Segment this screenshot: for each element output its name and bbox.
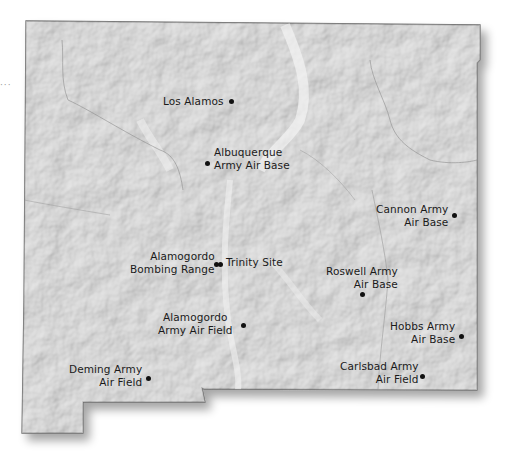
- label-cannon: Cannon Army Air Base: [376, 203, 448, 229]
- label-hobbs: Hobbs Army Air Base: [390, 320, 455, 346]
- label-deming: Deming Army Air Field: [69, 363, 142, 389]
- location-dot-albuquerque[interactable]: [205, 161, 210, 166]
- location-dot-deming[interactable]: [146, 376, 151, 381]
- location-dot-los-alamos[interactable]: [229, 99, 234, 104]
- location-dot-carlsbad[interactable]: [420, 374, 425, 379]
- location-dot-cannon[interactable]: [452, 213, 457, 218]
- location-dot-trinity-site[interactable]: [218, 262, 223, 267]
- location-dot-roswell[interactable]: [360, 292, 365, 297]
- label-albuquerque: Albuquerque Army Air Base: [214, 146, 290, 172]
- label-los-alamos: Los Alamos: [163, 95, 224, 108]
- leader-dots: ···: [0, 80, 12, 90]
- label-carlsbad: Carlsbad Army Air Field: [340, 360, 419, 386]
- label-roswell: Roswell Army Air Base: [326, 265, 398, 291]
- label-alamogordo-bombing-range: Alamogordo Bombing Range: [130, 250, 215, 276]
- location-dot-alamogordo-army-air-field[interactable]: [241, 323, 246, 328]
- label-alamogordo-army-air-field: Alamogordo Army Air Field: [158, 311, 233, 337]
- location-dot-hobbs[interactable]: [459, 334, 464, 339]
- label-trinity-site: Trinity Site: [226, 256, 283, 269]
